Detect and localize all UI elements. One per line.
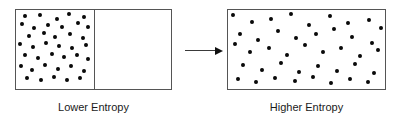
- container-divider: [94, 9, 95, 90]
- particle-dot: [285, 53, 289, 57]
- particle-dot: [86, 25, 90, 29]
- particle-dot: [62, 55, 66, 59]
- particle-dot: [348, 77, 352, 81]
- particle-dot: [260, 68, 264, 72]
- particle-dot: [86, 57, 90, 61]
- particle-dot: [314, 32, 318, 36]
- particle-dot: [256, 38, 260, 42]
- particle-dot: [50, 52, 54, 56]
- particle-dot: [250, 20, 254, 24]
- particle-dot: [372, 71, 376, 75]
- particle-dot: [36, 56, 40, 60]
- particle-dot: [269, 17, 273, 21]
- particle-dot: [303, 43, 307, 47]
- particle-dot: [231, 13, 235, 17]
- particle-dot: [39, 78, 43, 82]
- particle-dot: [20, 22, 24, 26]
- particle-dot: [376, 48, 380, 52]
- particle-dot: [233, 42, 237, 46]
- particle-dot: [60, 25, 64, 29]
- particle-dot: [53, 35, 57, 39]
- particle-dot: [366, 80, 370, 84]
- particle-dot: [367, 18, 371, 22]
- particle-dot: [82, 69, 86, 73]
- particle-dot: [311, 75, 315, 79]
- particle-dot: [370, 41, 374, 45]
- particle-dot: [78, 76, 82, 80]
- particle-dot: [42, 31, 46, 35]
- particle-dot: [321, 50, 325, 54]
- particle-dot: [82, 15, 86, 19]
- particle-dot: [241, 63, 245, 67]
- particle-dot: [56, 67, 60, 71]
- particle-dot: [44, 41, 48, 45]
- particle-dot: [346, 21, 350, 25]
- particle-dot: [329, 81, 333, 85]
- particle-dot: [353, 62, 357, 66]
- particle-dot: [328, 14, 332, 18]
- particle-dot: [332, 27, 336, 31]
- particle-dot: [307, 23, 311, 27]
- particle-dot: [75, 53, 79, 57]
- particle-dot: [70, 46, 74, 50]
- arrow-shaft: [185, 50, 216, 51]
- particle-dot: [23, 14, 27, 18]
- particle-dot: [43, 63, 47, 67]
- particle-dot: [55, 17, 59, 21]
- particle-dot: [67, 12, 71, 16]
- particle-dot: [293, 79, 297, 83]
- particle-dot: [81, 36, 85, 40]
- particle-dot: [316, 64, 320, 68]
- particle-dot: [30, 68, 34, 72]
- particle-dot: [25, 76, 29, 80]
- particle-dot: [297, 70, 301, 74]
- particle-dot: [273, 76, 277, 80]
- particle-dot: [69, 64, 73, 68]
- particle-dot: [254, 80, 258, 84]
- entropy-diagram: Lower Entropy Higher Entropy: [0, 0, 398, 118]
- particle-dot: [248, 50, 252, 54]
- particle-dot: [65, 78, 69, 82]
- particle-dot: [379, 26, 383, 30]
- particle-dot: [294, 36, 298, 40]
- particle-dot: [31, 45, 35, 49]
- particle-dot: [350, 35, 354, 39]
- particle-dot: [358, 54, 362, 58]
- particle-dot: [76, 21, 80, 25]
- particle-dot: [289, 12, 293, 16]
- particle-dot: [19, 64, 23, 68]
- particle-dot: [23, 53, 27, 57]
- particle-dot: [84, 43, 88, 47]
- particle-dot: [27, 34, 31, 38]
- right-caption: Higher Entropy: [227, 101, 386, 114]
- particle-dot: [267, 46, 271, 50]
- particle-dot: [339, 46, 343, 50]
- particle-dot: [68, 32, 72, 36]
- particle-dot: [52, 75, 56, 79]
- arrow-head-icon: [215, 47, 223, 55]
- particle-dot: [38, 13, 42, 17]
- particle-dot: [46, 23, 50, 27]
- particle-dot: [276, 29, 280, 33]
- particle-dot: [236, 77, 240, 81]
- particle-dot: [57, 44, 61, 48]
- particle-dot: [32, 26, 36, 30]
- particle-dot: [18, 42, 22, 46]
- particle-dot: [279, 61, 283, 65]
- particle-dot: [238, 32, 242, 36]
- left-caption: Lower Entropy: [15, 101, 172, 114]
- particle-dot: [335, 69, 339, 73]
